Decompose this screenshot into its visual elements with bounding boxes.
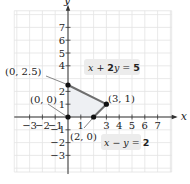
leader-line-2-0	[84, 119, 92, 128]
y-tick-label: 6	[59, 35, 65, 46]
y-tick-label: 2	[59, 86, 65, 97]
point-label-3-1: (3, 1)	[108, 93, 135, 104]
x-tick-label: 3	[103, 120, 109, 131]
point-label-2-0: (2, 0)	[70, 131, 97, 142]
y-tick-label: −1	[50, 124, 65, 135]
y-tick-label: 7	[59, 22, 65, 33]
y-axis-label: y	[63, 0, 71, 7]
leader-line-0-2.5	[46, 76, 66, 84]
equation-label-2: x − y = 2	[101, 134, 149, 150]
equation-label-1: x + 2y = 5	[84, 59, 140, 75]
x-tick-label: 1	[78, 120, 84, 131]
x-axis-arrow-icon	[172, 115, 178, 119]
x-tick-label: 7	[154, 120, 160, 131]
point-label-0-0: (0, 0)	[30, 94, 57, 105]
y-tick-label: 5	[59, 48, 65, 59]
vertex-point	[91, 114, 96, 119]
y-tick-label: 4	[59, 60, 65, 71]
x-tick-label: 4	[116, 120, 122, 131]
vertex-point	[104, 102, 109, 107]
vertex-point	[65, 82, 70, 87]
y-tick-label: 1	[59, 99, 65, 110]
equation-text: x + 2y = 5	[88, 62, 140, 73]
y-tick-label: −2	[50, 137, 65, 148]
x-tick-label: 5	[129, 120, 135, 131]
equation-text: x − y = 2	[104, 137, 149, 148]
vertex-point	[65, 114, 70, 119]
point-label-0-2.5: (0, 2.5)	[5, 66, 42, 77]
feasible-region-graph: x y −3−2−1134567 765421−1−2−3 x + 2y = 5…	[0, 0, 190, 184]
x-axis-label: x	[181, 110, 188, 123]
x-tick-label: 6	[142, 120, 148, 131]
axes: x y −3−2−1134567 765421−1−2−3	[14, 0, 187, 174]
y-tick-label: −3	[50, 150, 65, 161]
